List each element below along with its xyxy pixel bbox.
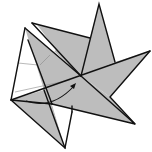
origami-diagram <box>0 0 152 152</box>
